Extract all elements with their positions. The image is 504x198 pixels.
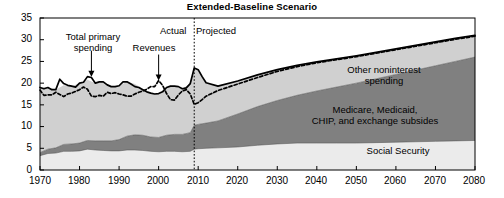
ytick-label-10: 10	[8, 121, 32, 131]
xtick-label-1990: 1990	[99, 176, 139, 186]
band-label-social-security-text: Social Security	[367, 145, 430, 156]
xtick-label-1970: 1970	[20, 176, 60, 186]
annotation-total-primary-spending-line1: Total primary	[66, 31, 120, 42]
chart-figure: Extended-Baseline Scenario 35 30 25 20 1…	[0, 0, 504, 198]
xtick-label-2050: 2050	[336, 176, 376, 186]
xtick-label-2030: 2030	[257, 176, 297, 186]
band-label-medicare-line2: CHIP, and exchange subsides	[312, 115, 439, 126]
ytick-label-0: 0	[8, 165, 32, 175]
annotation-revenues: Revenues	[122, 42, 186, 53]
band-label-medicare-line1: Medicare, Medicaid,	[332, 104, 417, 115]
xtick-label-2060: 2060	[375, 176, 415, 186]
band-label-social-security: Social Security	[348, 145, 448, 156]
xtick-label-2040: 2040	[296, 176, 336, 186]
label-actual: Actual	[160, 25, 186, 36]
band-label-other-noninterest-spending: Other noninterest spending	[328, 64, 440, 86]
label-projected: Projected	[196, 25, 236, 36]
ytick-label-35: 35	[8, 13, 32, 23]
xtick-label-2010: 2010	[178, 176, 218, 186]
band-label-other-noninterest-line2: spending	[365, 75, 404, 86]
xtick-label-2080: 2080	[454, 176, 494, 186]
ytick-label-30: 30	[8, 34, 32, 44]
annotation-revenues-label: Revenues	[133, 42, 176, 53]
ytick-label-5: 5	[8, 143, 32, 153]
ytick-label-15: 15	[8, 100, 32, 110]
band-label-other-noninterest-line1: Other noninterest	[347, 64, 420, 75]
band-label-medicare-medicaid: Medicare, Medicaid, CHIP, and exchange s…	[290, 104, 460, 126]
chart-plot-area	[0, 0, 504, 198]
annotation-total-primary-spending-line2: spending	[74, 42, 113, 53]
xtick-label-2070: 2070	[415, 176, 455, 186]
xtick-label-1980: 1980	[59, 176, 99, 186]
ytick-label-25: 25	[8, 56, 32, 66]
xtick-label-2000: 2000	[138, 176, 178, 186]
ytick-label-20: 20	[8, 78, 32, 88]
xtick-label-2020: 2020	[217, 176, 257, 186]
